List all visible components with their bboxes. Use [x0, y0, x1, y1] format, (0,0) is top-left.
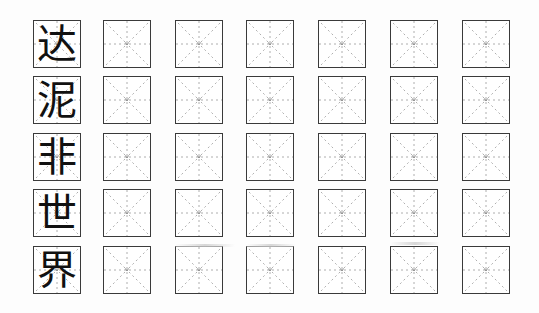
practice-cell[interactable] [390, 20, 438, 68]
practice-cell[interactable] [390, 76, 438, 124]
mi-grid-guide-lines [463, 247, 509, 293]
mi-grid-guide-lines [104, 77, 150, 123]
practice-cell[interactable] [175, 133, 223, 181]
practice-cell[interactable] [246, 20, 294, 68]
mi-grid-guide-lines [247, 21, 293, 67]
mi-grid-guide-lines [176, 190, 222, 236]
mi-grid-guide-lines [463, 77, 509, 123]
model-character-cell: 泥 [33, 76, 81, 124]
model-character: 世 [34, 190, 80, 236]
practice-cell[interactable] [462, 76, 510, 124]
mi-grid-guide-lines [391, 190, 437, 236]
practice-row: 非 [0, 133, 539, 181]
mi-grid-guide-lines [391, 134, 437, 180]
model-character: 非 [34, 134, 80, 180]
model-character-cell: 达 [33, 20, 81, 68]
practice-cell[interactable] [175, 246, 223, 294]
practice-cell[interactable] [318, 76, 366, 124]
practice-cell[interactable] [390, 189, 438, 237]
practice-cell[interactable] [462, 20, 510, 68]
practice-cell[interactable] [175, 189, 223, 237]
practice-cell[interactable] [246, 76, 294, 124]
mi-grid-guide-lines [247, 190, 293, 236]
practice-cell[interactable] [103, 76, 151, 124]
practice-cell[interactable] [462, 246, 510, 294]
practice-row: 达 [0, 20, 539, 68]
mi-grid-guide-lines [319, 77, 365, 123]
scan-artifact [390, 242, 440, 245]
mi-grid-guide-lines [463, 134, 509, 180]
practice-cell[interactable] [103, 246, 151, 294]
model-character: 达 [34, 21, 80, 67]
practice-row: 泥 [0, 76, 539, 124]
practice-cell[interactable] [246, 246, 294, 294]
mi-grid-guide-lines [104, 21, 150, 67]
mi-grid-guide-lines [463, 21, 509, 67]
mi-grid-guide-lines [176, 134, 222, 180]
practice-cell[interactable] [318, 20, 366, 68]
practice-cell[interactable] [390, 133, 438, 181]
practice-cell[interactable] [390, 246, 438, 294]
mi-grid-guide-lines [247, 247, 293, 293]
mi-grid-guide-lines [176, 21, 222, 67]
mi-grid-guide-lines [319, 21, 365, 67]
scan-artifact [175, 244, 235, 247]
mi-grid-guide-lines [247, 77, 293, 123]
model-character-cell: 非 [33, 133, 81, 181]
practice-cell[interactable] [318, 133, 366, 181]
mi-grid-guide-lines [319, 134, 365, 180]
mi-grid-guide-lines [391, 77, 437, 123]
practice-worksheet: 达泥非世界 [0, 0, 539, 313]
model-character: 泥 [34, 77, 80, 123]
practice-row: 界 [0, 246, 539, 294]
practice-cell[interactable] [103, 133, 151, 181]
model-character-cell: 界 [33, 246, 81, 294]
practice-cell[interactable] [246, 189, 294, 237]
practice-cell[interactable] [462, 189, 510, 237]
mi-grid-guide-lines [391, 247, 437, 293]
mi-grid-guide-lines [176, 247, 222, 293]
mi-grid-guide-lines [463, 190, 509, 236]
practice-cell[interactable] [462, 133, 510, 181]
practice-cell[interactable] [318, 189, 366, 237]
mi-grid-guide-lines [319, 247, 365, 293]
practice-cell[interactable] [318, 246, 366, 294]
mi-grid-guide-lines [176, 77, 222, 123]
mi-grid-guide-lines [247, 134, 293, 180]
mi-grid-guide-lines [104, 134, 150, 180]
scan-artifact [246, 244, 296, 247]
mi-grid-guide-lines [319, 190, 365, 236]
mi-grid-guide-lines [104, 247, 150, 293]
mi-grid-guide-lines [104, 190, 150, 236]
practice-cell[interactable] [175, 76, 223, 124]
mi-grid-guide-lines [391, 21, 437, 67]
practice-row: 世 [0, 189, 539, 237]
model-character: 界 [34, 247, 80, 293]
model-character-cell: 世 [33, 189, 81, 237]
practice-cell[interactable] [103, 189, 151, 237]
practice-cell[interactable] [246, 133, 294, 181]
practice-cell[interactable] [103, 20, 151, 68]
practice-cell[interactable] [175, 20, 223, 68]
